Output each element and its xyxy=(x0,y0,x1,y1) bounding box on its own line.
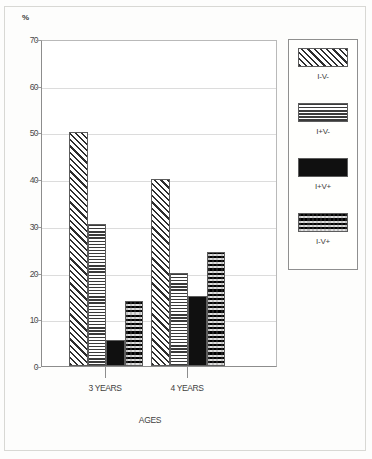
y-axis-tick-label: 30 xyxy=(16,222,38,232)
y-axis-tick-mark xyxy=(36,227,41,228)
y-axis-tick-label: 0 xyxy=(16,362,38,372)
legend-label: I-V+ xyxy=(289,237,357,246)
bar xyxy=(125,301,144,366)
y-axis-tick-labels: 010203040506070 xyxy=(11,40,38,367)
legend-swatch xyxy=(298,48,348,67)
bar xyxy=(69,132,88,366)
bar-chart: % 010203040506070 3 YEARS4 YEARS AGES I-… xyxy=(0,0,372,459)
bar xyxy=(106,340,125,366)
y-axis-unit-label: % xyxy=(22,13,29,22)
legend-swatch xyxy=(298,103,348,122)
y-axis-tick-mark xyxy=(36,274,41,275)
y-axis-tick-mark xyxy=(36,133,41,134)
y-axis-tick-mark xyxy=(36,320,41,321)
x-axis-tick-mark xyxy=(187,367,188,378)
y-axis-tick-label: 60 xyxy=(16,82,38,92)
y-axis-tick-label: 70 xyxy=(16,35,38,45)
y-axis-tick-mark xyxy=(36,87,41,88)
legend-label: I-V- xyxy=(289,72,357,81)
y-axis-tick-label: 50 xyxy=(16,128,38,138)
x-axis-group-label: 3 YEARS xyxy=(60,383,150,393)
plot-area xyxy=(41,40,277,367)
bar xyxy=(88,224,107,366)
legend: I-V-I+V-I+V+I-V+ xyxy=(288,39,358,270)
legend-swatch xyxy=(298,213,348,232)
y-axis-tick-label: 20 xyxy=(16,269,38,279)
legend-swatch xyxy=(298,158,348,177)
y-axis-tick-mark xyxy=(36,180,41,181)
legend-label: I+V- xyxy=(289,127,357,136)
bar xyxy=(207,252,226,366)
x-axis-tick-mark xyxy=(105,367,106,378)
x-axis-group-label: 4 YEARS xyxy=(142,383,232,393)
bar xyxy=(170,273,189,366)
y-axis-tick-mark xyxy=(36,367,41,368)
y-axis-tick-label: 10 xyxy=(16,315,38,325)
y-axis-tick-mark xyxy=(36,40,41,41)
gridline xyxy=(42,88,276,89)
bar xyxy=(151,179,170,366)
bar xyxy=(188,296,207,366)
y-axis-tick-label: 40 xyxy=(16,175,38,185)
x-axis-title: AGES xyxy=(0,415,300,425)
legend-label: I+V+ xyxy=(289,182,357,191)
